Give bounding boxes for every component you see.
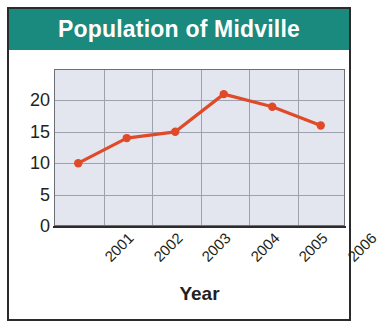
x-axis-tick-label: 2005 <box>296 230 330 264</box>
x-axis-tick-labels: 200120022003200420052006 <box>54 228 345 284</box>
y-axis-tick-label: 15 <box>10 123 50 141</box>
gridline-vertical <box>249 70 250 225</box>
gridline-horizontal <box>55 163 344 164</box>
x-axis-tick-label: 2003 <box>199 230 233 264</box>
y-axis-tick-label: 10 <box>10 154 50 172</box>
gridline-horizontal <box>55 195 344 196</box>
gridline-vertical <box>152 70 153 225</box>
gridline-vertical <box>104 70 105 225</box>
x-axis-tick-label: 2002 <box>151 230 185 264</box>
chart-title: Population of Midville <box>58 18 300 41</box>
chart-title-banner: Population of Midville <box>9 9 349 50</box>
y-axis-tick-labels: 05101520 <box>9 69 50 226</box>
y-axis-tick-label: 0 <box>10 217 50 235</box>
y-axis-tick-label: 5 <box>10 186 50 204</box>
x-axis-tick-label: 2001 <box>102 230 136 264</box>
x-axis-tick-label: 2004 <box>248 230 282 264</box>
x-axis-title: Year <box>54 284 345 303</box>
plot-region: 05101520 200120022003200420052006 Year <box>9 50 349 319</box>
y-axis-tick-label: 20 <box>10 91 50 109</box>
chart-figure: Population of Midville 05101520 20012002… <box>7 7 351 321</box>
gridline-horizontal <box>55 100 344 101</box>
gridline-horizontal <box>55 132 344 133</box>
x-axis-tick-label: 2006 <box>345 230 379 264</box>
plot-area <box>54 69 345 226</box>
gridline-vertical <box>201 70 202 225</box>
gridline-vertical <box>298 70 299 225</box>
